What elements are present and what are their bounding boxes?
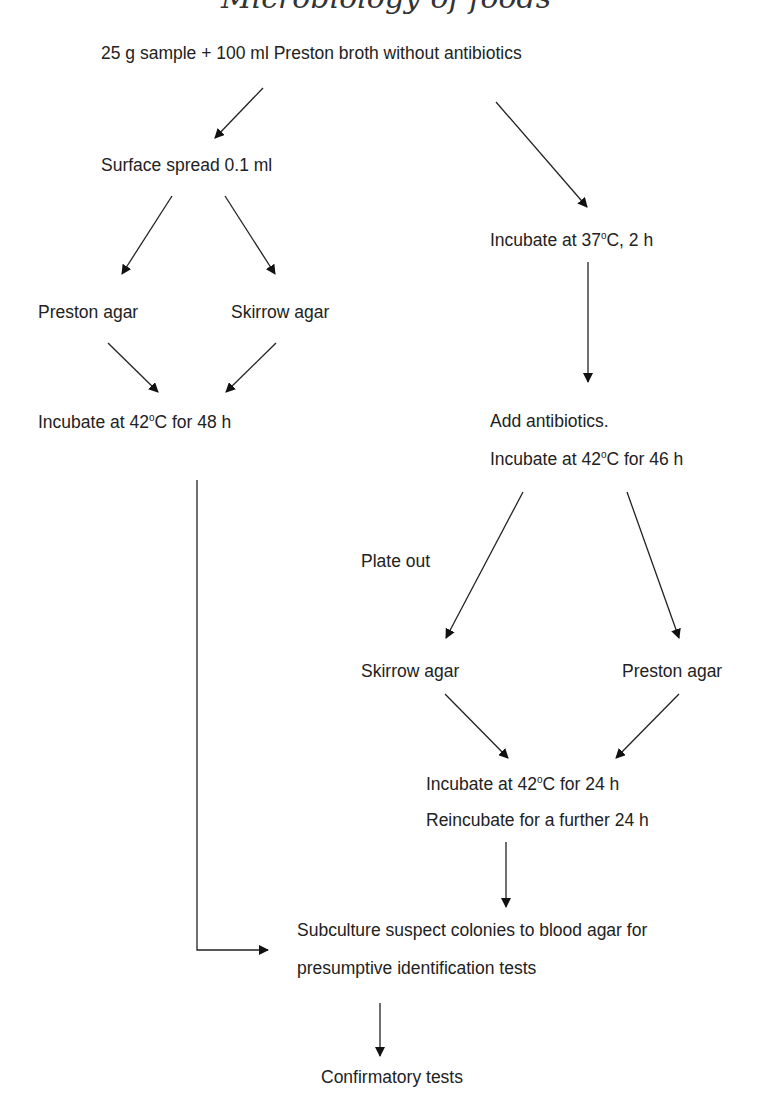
node-surface-spread: Surface spread 0.1 ml xyxy=(101,157,272,175)
arrow-skirrow-to-incubate48 xyxy=(226,343,276,392)
node-incubate-42-46: Incubate at 42oC for 46 h xyxy=(490,450,683,469)
arrow-spread-to-skirrow xyxy=(225,196,275,274)
node-incubate-42-48: Incubate at 42oC for 48 h xyxy=(38,413,231,432)
node-start: 25 g sample + 100 ml Preston broth witho… xyxy=(101,45,522,63)
node-incubate-37: Incubate at 37oC, 2 h xyxy=(490,231,653,250)
node-subculture-line2: presumptive identification tests xyxy=(297,960,536,978)
arrow-spread-to-preston xyxy=(122,196,172,274)
node-preston-agar-1: Preston agar xyxy=(38,304,138,322)
node-subculture-line1: Subculture suspect colonies to blood aga… xyxy=(297,922,647,940)
node-incubate-42-24: Incubate at 42oC for 24 h xyxy=(426,775,619,794)
node-add-antibiotics: Add antibiotics. xyxy=(490,413,609,431)
arrow-start-to-spread xyxy=(215,88,263,138)
node-reincubate: Reincubate for a further 24 h xyxy=(426,812,649,830)
arrow-preston-to-incubate48 xyxy=(108,343,158,392)
node-skirrow-agar-1: Skirrow agar xyxy=(231,304,329,322)
node-preston-agar-2: Preston agar xyxy=(622,663,722,681)
arrow-skirrow2-to-incubate24 xyxy=(445,694,508,758)
arrow-to-preston2 xyxy=(627,492,679,638)
node-confirmatory-tests: Confirmatory tests xyxy=(321,1069,463,1087)
arrow-preston2-to-incubate24 xyxy=(616,694,679,758)
label-plate-out: Plate out xyxy=(361,553,430,571)
arrow-incubate48-to-subculture xyxy=(197,480,268,950)
arrow-to-skirrow2 xyxy=(446,492,523,638)
arrow-start-to-incubate37 xyxy=(496,102,587,207)
node-skirrow-agar-2: Skirrow agar xyxy=(361,663,459,681)
